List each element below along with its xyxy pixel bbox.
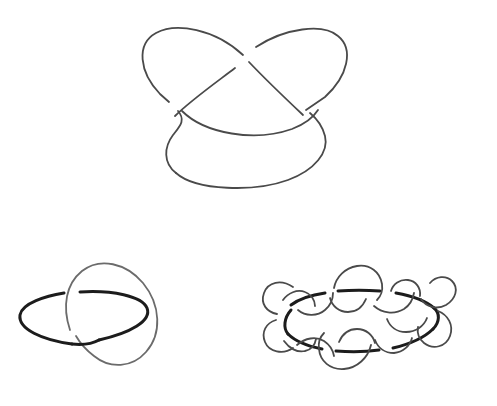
wavy-ellipse-bottom-mid-seg bbox=[336, 350, 379, 352]
figure-bottom-left-hopf bbox=[20, 263, 157, 365]
wavy-ellipse-top-mid-seg bbox=[338, 290, 380, 291]
trefoil-arc-left-lobe bbox=[143, 28, 243, 102]
wavy-lobe-upper-left-inner bbox=[283, 291, 315, 306]
wavy-lobe-left-outer bbox=[263, 282, 293, 314]
hopf-flat-ellipse-top-right-arc bbox=[80, 292, 148, 340]
trefoil-arc-right-lobe bbox=[256, 29, 347, 110]
figure-top-trefoil bbox=[143, 28, 347, 188]
trefoil-strand-inner-sweep bbox=[182, 110, 318, 135]
hopf-flat-ellipse-left-arc bbox=[20, 293, 72, 344]
trefoil-strand-diagonal-upper bbox=[175, 68, 235, 116]
wavy-lobe-top-left-rise bbox=[334, 266, 382, 300]
wavy-ellipse-bottom-left-seg bbox=[288, 334, 322, 349]
knot-diagrams-svg bbox=[0, 0, 497, 406]
wavy-seg-right-descend bbox=[387, 318, 427, 332]
wavy-ellipse-left-cap bbox=[285, 310, 291, 334]
wavy-ellipse-top-left-seg bbox=[291, 293, 325, 305]
wavy-seg-top-middle-dip bbox=[330, 298, 366, 312]
figure-bottom-right-wavy bbox=[263, 266, 456, 369]
hopf-tilted-oval-upper-arc bbox=[66, 263, 157, 365]
trefoil-strand-diagonal-lower bbox=[249, 62, 303, 115]
trefoil-arc-left-descend bbox=[166, 111, 182, 173]
figure-canvas bbox=[0, 0, 497, 406]
hopf-flat-ellipse-bottom-arc bbox=[72, 340, 99, 344]
wavy-seg-bottom-middle-rise bbox=[339, 329, 375, 343]
